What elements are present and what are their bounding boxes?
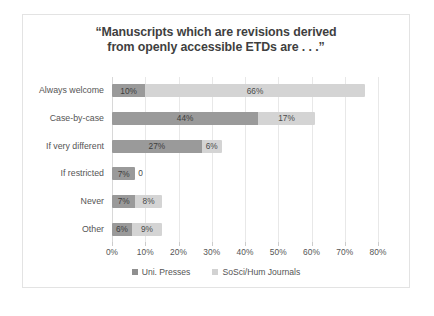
stacked-bar[interactable]: 7% (112, 167, 135, 180)
x-tick-label: 0% (106, 247, 118, 257)
data-label: 9% (141, 225, 153, 233)
x-tick-label: 50% (270, 247, 287, 257)
bar-row: If very different27%6% (112, 140, 378, 153)
gridline-70 (345, 77, 346, 243)
stacked-bar[interactable]: 27%6% (112, 140, 222, 153)
legend-swatch-icon (132, 269, 138, 275)
data-label: 44% (177, 114, 194, 122)
bar-segment-uni-presses[interactable]: 44% (112, 112, 258, 125)
legend-label: Uni. Presses (142, 267, 191, 277)
x-tick-label: 80% (370, 247, 387, 257)
data-label: 7% (118, 197, 130, 205)
bar-segment-sosci-hum-journals[interactable]: 6% (202, 140, 222, 153)
plot-area: Always welcome10%66%Case-by-case44%17%If… (112, 77, 378, 243)
data-label: 27% (149, 142, 166, 150)
data-label-zero: 0 (138, 167, 143, 180)
gridline-20 (179, 77, 180, 243)
category-label-case-by-case: Case-by-case (0, 112, 104, 125)
gridline-60 (312, 77, 313, 243)
legend-item-uni-presses[interactable]: Uni. Presses (132, 267, 191, 277)
gridline-40 (245, 77, 246, 243)
chart-title-line-2: from openly accessible ETDs are . . .” (23, 40, 409, 55)
x-tick-label: 60% (303, 247, 320, 257)
bar-segment-uni-presses[interactable]: 27% (112, 140, 202, 153)
bar-row: Never7%8% (112, 195, 378, 208)
bar-row: Case-by-case44%17% (112, 112, 378, 125)
category-label-always-welcome: Always welcome (0, 84, 104, 97)
bar-row: Other6%9% (112, 223, 378, 236)
chart-title-line-1: “Manuscripts which are revisions derived (23, 25, 409, 40)
stacked-bar[interactable]: 44%17% (112, 112, 315, 125)
legend-label: SoSci/Hum Journals (222, 267, 300, 277)
chart-legend: Uni. PressesSoSci/Hum Journals (23, 267, 409, 277)
x-tickmark (312, 242, 313, 246)
data-label: 8% (143, 197, 155, 205)
data-label: 6% (116, 225, 128, 233)
data-label: 66% (247, 87, 264, 95)
x-axis: 0%10%20%30%40%50%60%70%80% (112, 247, 378, 261)
data-label: 7% (118, 170, 130, 178)
gridline-10 (145, 77, 146, 243)
x-tick-label: 20% (170, 247, 187, 257)
x-tickmark (345, 242, 346, 246)
category-label-other: Other (0, 223, 104, 236)
x-tick-label: 40% (237, 247, 254, 257)
legend-item-sosci-hum-journals[interactable]: SoSci/Hum Journals (212, 267, 300, 277)
x-tickmark (378, 242, 379, 246)
x-tick-label: 70% (336, 247, 353, 257)
gridline-30 (212, 77, 213, 243)
data-label: 17% (278, 114, 295, 122)
stacked-bar[interactable]: 7%8% (112, 195, 162, 208)
legend-swatch-icon (212, 269, 218, 275)
chart-title: “Manuscripts which are revisions derived… (23, 25, 409, 55)
bar-segment-sosci-hum-journals[interactable]: 9% (132, 223, 162, 236)
bar-row: If restricted7%0 (112, 167, 378, 180)
data-label: 10% (120, 87, 137, 95)
bar-segment-uni-presses[interactable]: 10% (112, 84, 145, 97)
stacked-bar[interactable]: 6%9% (112, 223, 162, 236)
bar-segment-sosci-hum-journals[interactable]: 8% (135, 195, 162, 208)
gridline-50 (278, 77, 279, 243)
x-tickmark (212, 242, 213, 246)
x-tick-label: 10% (137, 247, 154, 257)
data-label: 6% (206, 142, 218, 150)
bar-segment-uni-presses[interactable]: 7% (112, 167, 135, 180)
bar-segment-sosci-hum-journals[interactable]: 17% (258, 112, 315, 125)
x-tickmark (112, 242, 113, 246)
bar-segment-uni-presses[interactable]: 6% (112, 223, 132, 236)
bar-segment-sosci-hum-journals[interactable]: 66% (145, 84, 364, 97)
bar-row: Always welcome10%66% (112, 84, 378, 97)
x-tickmark (179, 242, 180, 246)
bar-segment-uni-presses[interactable]: 7% (112, 195, 135, 208)
gridline-0 (112, 77, 113, 243)
category-label-never: Never (0, 195, 104, 208)
category-label-if-restricted: If restricted (0, 167, 104, 180)
gridline-80 (378, 77, 379, 243)
stacked-bar[interactable]: 10%66% (112, 84, 365, 97)
category-label-if-very-different: If very different (0, 140, 104, 153)
x-tickmark (245, 242, 246, 246)
x-tick-label: 30% (203, 247, 220, 257)
x-tickmark (278, 242, 279, 246)
x-tickmark (145, 242, 146, 246)
chart-container: “Manuscripts which are revisions derived… (22, 14, 410, 288)
